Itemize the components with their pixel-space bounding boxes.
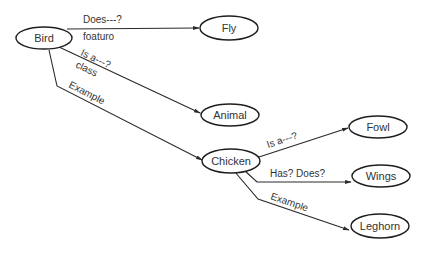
node-fly-label: Fly — [222, 22, 237, 34]
edge-label-bird-fly-below: foaturo — [83, 31, 115, 42]
node-bird[interactable]: Bird — [16, 27, 72, 49]
node-fowl[interactable]: Fowl — [349, 116, 407, 138]
node-animal[interactable]: Animal — [201, 104, 259, 126]
node-animal-label: Animal — [213, 109, 247, 121]
node-chicken[interactable]: Chicken — [202, 149, 260, 173]
node-wings[interactable]: Wings — [352, 165, 410, 187]
node-chicken-label: Chicken — [211, 155, 251, 167]
semantic-network-diagram: Does---? foaturo Is a---? class Example … — [0, 0, 425, 255]
node-bird-label: Bird — [34, 32, 54, 44]
edge-labels: Does---? foaturo Is a---? class Example … — [67, 14, 325, 214]
edge-bird-chicken[interactable] — [49, 50, 202, 160]
node-fowl-label: Fowl — [366, 121, 389, 133]
node-leghorn-label: Leghorn — [360, 220, 400, 232]
node-leghorn[interactable]: Leghorn — [351, 214, 409, 238]
edge-label-bird-chicken: Example — [67, 79, 107, 107]
node-wings-label: Wings — [366, 170, 397, 182]
edge-bird-fly[interactable] — [67, 28, 199, 29]
edge-label-chicken-fowl: Is a---? — [265, 130, 299, 150]
edge-label-bird-fly-above: Does---? — [83, 14, 122, 25]
node-fly[interactable]: Fly — [200, 16, 258, 40]
edge-label-chicken-wings: Has? Does? — [270, 168, 325, 179]
